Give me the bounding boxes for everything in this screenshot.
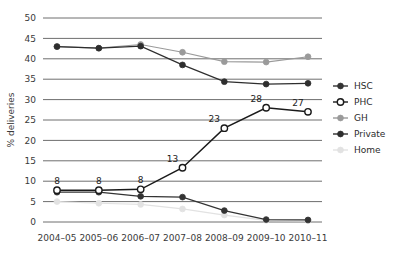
data-point-private [305,80,311,86]
legend-marker-private [338,131,344,137]
legend-label-gh[interactable]: GH [354,113,368,123]
x-axis-tick-label: 2005–06 [79,233,118,243]
data-point-hsc [138,193,144,199]
data-point-private [138,43,144,49]
data-point-gh [180,49,186,55]
y-axis-tick-label: 35 [25,74,36,84]
data-point-gh [305,54,311,60]
y-axis-tick-label: 50 [25,13,37,23]
data-point-home [180,206,186,212]
legend-marker-hsc [338,83,344,89]
data-point-hsc [180,194,186,200]
data-point-private [263,81,269,87]
x-axis-tick-label: 2007–08 [163,233,202,243]
data-point-phc [54,187,60,193]
data-point-hsc [221,208,227,214]
legend-marker-home [338,147,344,153]
data-point-label: 8 [138,175,144,185]
data-point-private [180,62,186,68]
data-point-label: 27 [292,98,303,108]
y-axis-tick-label: 25 [25,115,36,125]
y-axis-tick-label: 10 [25,176,37,186]
data-point-private [96,45,102,51]
legend-label-private[interactable]: Private [354,129,386,139]
chart-container: 05101520253035404550% deliveries2004–052… [0,0,398,261]
legend-marker-phc [337,99,343,105]
legend-label-hsc[interactable]: HSC [354,81,373,91]
data-point-label: 8 [54,176,60,186]
legend-label-phc[interactable]: PHC [354,97,372,107]
data-point-home [54,199,60,205]
data-point-phc [305,109,311,115]
data-point-home [96,200,102,206]
data-point-phc [137,186,143,192]
data-point-label: 28 [250,94,262,104]
x-axis-tick-label: 2006–07 [121,233,160,243]
data-point-private [54,44,60,50]
data-point-phc [221,125,227,131]
data-point-gh [221,59,227,65]
y-axis-tick-label: 45 [25,34,36,44]
x-axis-tick-label: 2004–05 [38,233,77,243]
y-axis-tick-label: 20 [25,136,37,146]
x-axis-tick-label: 2010–11 [289,233,328,243]
data-point-hsc [305,217,311,223]
line-chart: 05101520253035404550% deliveries2004–052… [0,0,398,261]
data-point-home [138,202,144,208]
y-axis-tick-label: 5 [30,197,36,207]
y-axis-title: % deliveries [6,92,16,147]
data-point-label: 13 [167,154,178,164]
data-point-phc [96,187,102,193]
y-axis-tick-label: 40 [25,54,37,64]
data-point-label: 8 [96,176,102,186]
legend-label-home[interactable]: Home [354,145,381,155]
y-axis-tick-label: 0 [30,217,36,227]
legend-marker-gh [338,115,344,121]
y-axis-tick-label: 30 [25,95,37,105]
x-axis-tick-label: 2008–09 [205,233,244,243]
data-point-private [221,79,227,85]
y-axis-tick-label: 15 [25,156,36,166]
x-axis-tick-label: 2009–10 [247,233,286,243]
data-point-phc [179,165,185,171]
data-point-phc [263,105,269,111]
data-point-gh [263,59,269,65]
data-point-label: 23 [209,114,220,124]
data-point-hsc [263,217,269,223]
